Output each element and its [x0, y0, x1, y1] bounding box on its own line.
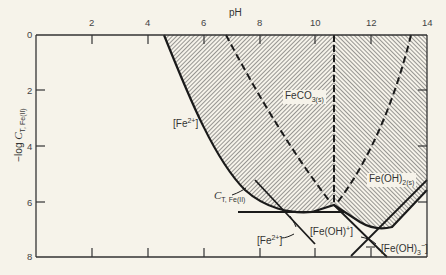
- label-ct-fe-ii: CT, Fe(II): [214, 190, 245, 203]
- label-fe2-lower: [Fe2+]: [257, 234, 282, 246]
- x-axis-title: pH: [229, 8, 242, 18]
- x-tick-6: 6: [201, 18, 206, 28]
- y-tick-6: 6: [27, 198, 32, 208]
- feoh2-region: [334, 35, 427, 228]
- y-tick-2: 2: [27, 86, 32, 96]
- label-feco3-solid: FeCO3(s): [283, 90, 326, 104]
- x-tick-10: 10: [310, 18, 321, 28]
- x-tick-2: 2: [89, 18, 94, 28]
- y-tick-8: 8: [27, 252, 32, 262]
- label-fe2-upper: [Fe2+]: [173, 117, 198, 129]
- x-tick-14: 14: [422, 18, 433, 28]
- y-axis-title: −log CT, Fe(II): [12, 108, 26, 161]
- label-feoh-plus: [Fe(OH)+]: [310, 225, 353, 237]
- x-tick-12: 12: [366, 18, 377, 28]
- y-tick-0: 0: [27, 30, 32, 40]
- y-tick-4: 4: [27, 142, 32, 152]
- x-tick-4: 4: [145, 18, 150, 28]
- bottom-ticks: [92, 248, 371, 257]
- x-tick-8: 8: [257, 18, 262, 28]
- pc-ph-diagram: [0, 0, 446, 275]
- left-ticks: [36, 90, 45, 202]
- label-feoh3-minus: [Fe(OH)3−]: [381, 242, 428, 256]
- label-feoh2-solid: Fe(OH)2(s): [367, 173, 416, 187]
